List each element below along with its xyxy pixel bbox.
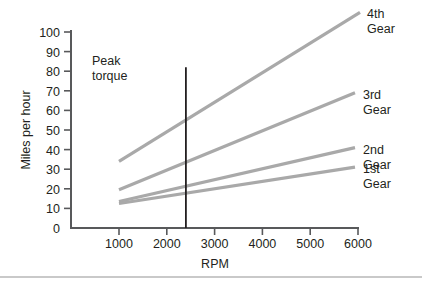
y-axis-ticks bbox=[64, 32, 71, 208]
x-tick-label-5000: 5000 bbox=[296, 237, 324, 251]
peak-torque-label-line1: Peak bbox=[92, 54, 121, 68]
chart-canvas: 100 90 80 70 60 50 40 30 20 10 0 Miles p… bbox=[0, 0, 422, 285]
y-tick-label-70: 70 bbox=[46, 85, 60, 99]
series-line-1st-gear bbox=[119, 167, 355, 203]
x-tick-label-2000: 2000 bbox=[153, 237, 181, 251]
series-label-2nd-gear-line1: 2nd bbox=[363, 143, 384, 157]
y-tick-label-80: 80 bbox=[46, 65, 60, 79]
y-tick-label-20: 20 bbox=[46, 183, 60, 197]
series-label-3rd-gear-line1: 3rd bbox=[363, 88, 381, 102]
series-label-4th-gear-line2: Gear bbox=[367, 22, 395, 36]
x-axis-title: RPM bbox=[201, 257, 229, 271]
x-tick-label-1000: 1000 bbox=[105, 237, 133, 251]
y-tick-label-40: 40 bbox=[46, 144, 60, 158]
x-tick-label-3000: 3000 bbox=[201, 237, 229, 251]
x-tick-label-6000: 6000 bbox=[344, 237, 372, 251]
series-label-4th-gear-line1: 4th bbox=[367, 7, 384, 21]
y-tick-label-60: 60 bbox=[46, 104, 60, 118]
y-tick-label-10: 10 bbox=[46, 202, 60, 216]
y-tick-label-90: 90 bbox=[46, 46, 60, 60]
x-tick-label-4000: 4000 bbox=[248, 237, 276, 251]
series-label-1st-gear-line2: Gear bbox=[363, 177, 391, 191]
y-tick-label-100: 100 bbox=[39, 26, 60, 40]
series-label-1st-gear-line1: 1st bbox=[363, 162, 380, 176]
y-tick-label-0: 0 bbox=[53, 222, 60, 236]
x-axis-ticks bbox=[119, 228, 358, 235]
chart-figure: 100 90 80 70 60 50 40 30 20 10 0 Miles p… bbox=[0, 0, 422, 285]
y-tick-label-50: 50 bbox=[46, 124, 60, 138]
y-tick-label-30: 30 bbox=[46, 163, 60, 177]
series-label-3rd-gear-line2: Gear bbox=[363, 103, 391, 117]
y-axis-title: Miles per hour bbox=[19, 90, 33, 169]
peak-torque-label-line2: torque bbox=[92, 69, 127, 83]
